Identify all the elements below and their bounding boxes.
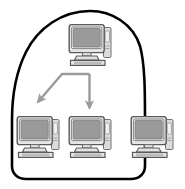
computer-outside-right[interactable] — [131, 117, 173, 158]
diagram-canvas: Multicast distribution from a server com… — [0, 0, 185, 189]
network-diagram-svg — [0, 0, 185, 189]
